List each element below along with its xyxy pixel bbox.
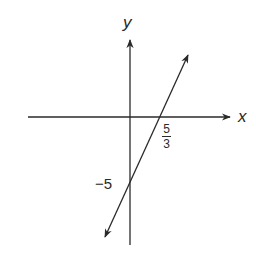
x-intercept-denominator: 3 xyxy=(163,138,170,150)
coordinate-plane: y x 5 3 −5 xyxy=(0,0,256,255)
x-intercept-label: 5 3 xyxy=(162,123,171,150)
y-axis-label: y xyxy=(123,14,132,31)
y-intercept-label: −5 xyxy=(95,176,112,191)
line-graph xyxy=(105,55,188,237)
graph-svg xyxy=(0,0,256,255)
x-axis-label: x xyxy=(238,108,247,125)
x-intercept-numerator: 5 xyxy=(163,123,170,135)
